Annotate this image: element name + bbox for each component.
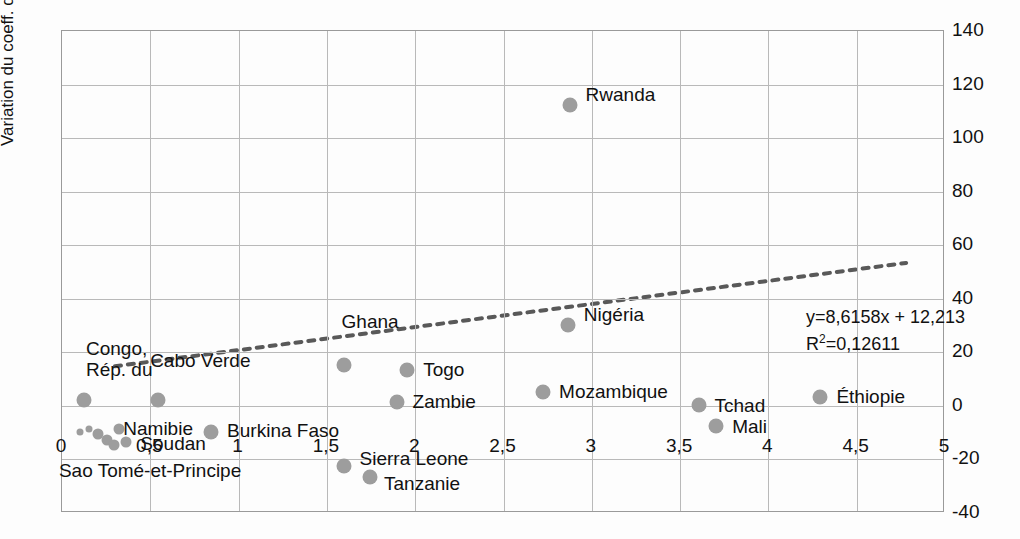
data-point-label: Congo, Rép. du <box>86 338 153 380</box>
data-point-label: Burkina Faso <box>227 420 339 441</box>
data-point-label: Zambie <box>413 391 476 412</box>
x-axis-tick-label: 2,5 <box>489 436 515 455</box>
x-axis-tick-label: 3,5 <box>666 436 692 455</box>
data-point[interactable] <box>691 397 706 412</box>
y-axis-tick-label: 120 <box>952 74 984 93</box>
trendline-equation: y=8,6158x + 12,213 <box>806 306 965 328</box>
trendline-r-squared: R2=0,12611 <box>806 328 965 355</box>
data-point-label: Nigéria <box>584 304 644 325</box>
x-axis-tick-label: 0 <box>56 436 67 455</box>
data-point[interactable] <box>204 424 219 439</box>
gridline-horizontal <box>62 85 943 86</box>
x-axis-tick-label: 5 <box>939 436 950 455</box>
data-point-label: Tchad <box>715 395 766 416</box>
x-axis-tick-label: 4,5 <box>842 436 868 455</box>
data-point-label: Éthiopie <box>836 386 905 407</box>
data-point-label: Sao Tomé-et-Principe <box>59 460 241 481</box>
trendline-equation-box: y=8,6158x + 12,213 R2=0,12611 <box>806 306 965 355</box>
data-point-label: Ghana <box>342 311 399 332</box>
y-axis-tick-label: 60 <box>952 234 973 253</box>
data-point[interactable] <box>363 470 378 485</box>
y-axis-tick-label: 80 <box>952 181 973 200</box>
data-point[interactable] <box>76 392 91 407</box>
x-axis-tick-label: 4 <box>762 436 773 455</box>
data-point-label: Cabo Verde <box>150 350 250 371</box>
gridline-horizontal <box>62 245 943 246</box>
r-value: =0,12611 <box>826 334 900 354</box>
data-point[interactable] <box>400 363 415 378</box>
r-label: R <box>806 334 819 354</box>
gridline-horizontal <box>62 406 943 407</box>
data-point-label: Rwanda <box>586 84 656 105</box>
data-point-label: Sierra Leone <box>360 448 469 469</box>
gridline-horizontal <box>62 138 943 139</box>
data-point[interactable] <box>560 317 575 332</box>
y-axis-tick-label: -20 <box>952 448 979 467</box>
scatter-chart: Variation du coeff. de Gini (%) y=8,6158… <box>0 0 1020 539</box>
y-axis-title: Variation du coeff. de Gini (%) <box>0 0 18 146</box>
data-point[interactable] <box>151 392 166 407</box>
y-axis-tick-label: 40 <box>952 288 973 307</box>
data-point[interactable] <box>536 384 551 399</box>
data-point[interactable] <box>562 97 577 112</box>
gridline-horizontal <box>62 299 943 300</box>
y-axis-tick-label: 140 <box>952 20 984 39</box>
data-point[interactable] <box>336 459 351 474</box>
data-point[interactable] <box>709 419 724 434</box>
data-point-label: Mali <box>732 416 767 437</box>
data-point-label: Tanzanie <box>384 473 460 494</box>
y-axis-tick-label: 0 <box>952 395 963 414</box>
y-axis-tick-label: -40 <box>952 502 979 521</box>
data-point[interactable] <box>121 437 132 448</box>
r-exponent: 2 <box>819 332 826 346</box>
data-point[interactable] <box>813 389 828 404</box>
data-point-label: Soudan <box>140 433 206 454</box>
data-point[interactable] <box>389 395 404 410</box>
data-point[interactable] <box>93 429 104 440</box>
data-point[interactable] <box>86 425 93 432</box>
data-point[interactable] <box>108 440 119 451</box>
data-point-label: Mozambique <box>559 381 668 402</box>
data-point[interactable] <box>77 428 84 435</box>
data-point[interactable] <box>336 357 351 372</box>
y-axis-tick-label: 100 <box>952 127 984 146</box>
y-axis-tick-label: 20 <box>952 341 973 360</box>
gridline-horizontal <box>62 192 943 193</box>
x-axis-tick-label: 3 <box>586 436 597 455</box>
data-point-label: Togo <box>423 359 464 380</box>
